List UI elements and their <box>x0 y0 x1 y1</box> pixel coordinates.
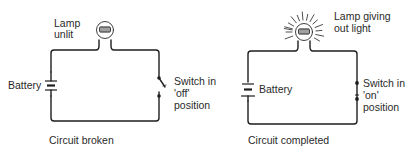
caption: Circuit broken <box>49 134 114 146</box>
light-ray <box>314 38 319 41</box>
circuit-completed: Lamp giving out light Battery Switch in … <box>241 10 405 146</box>
light-ray <box>291 17 296 23</box>
switch-off-icon <box>157 76 166 98</box>
circuit-broken: Lamp unlit Battery Switch in 'off' posit… <box>8 17 216 146</box>
light-ray <box>315 25 322 28</box>
wire-battery-bottom <box>51 96 159 121</box>
switch-label: position <box>174 99 210 111</box>
lamp-unlit-icon <box>97 22 114 39</box>
lamp-label: unlit <box>54 28 73 40</box>
switch-label: Switch in <box>174 75 216 87</box>
switch-label: position <box>363 101 399 113</box>
light-ray <box>313 20 317 24</box>
lamp-label: Lamp giving <box>334 10 391 22</box>
light-ray <box>285 36 293 39</box>
switch-label: 'off' <box>174 87 190 99</box>
lamp-label: out light <box>334 22 371 34</box>
lamp-lit-icon <box>284 12 323 41</box>
light-ray <box>297 15 299 21</box>
light-ray <box>316 34 324 36</box>
battery-icon <box>241 84 255 101</box>
wire-top-left <box>51 40 99 72</box>
circuit-diagrams: Lamp unlit Battery Switch in 'off' posit… <box>0 0 408 157</box>
light-ray <box>302 12 303 20</box>
battery-icon <box>45 72 57 96</box>
caption: Circuit completed <box>248 134 329 146</box>
light-ray <box>288 23 293 26</box>
battery-label: Battery <box>8 79 42 91</box>
wire-top-left <box>248 41 298 82</box>
wire-top-right <box>111 40 159 78</box>
battery-label: Battery <box>259 83 293 95</box>
switch-label: Switch in <box>363 77 405 89</box>
light-ray <box>310 15 314 22</box>
light-ray <box>306 14 307 20</box>
light-ray <box>316 30 322 31</box>
switch-label: 'on' <box>363 89 379 101</box>
